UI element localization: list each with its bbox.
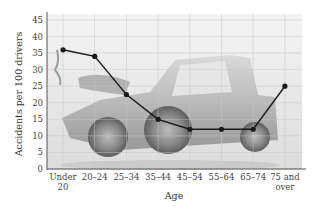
y-tick-label: 25 xyxy=(32,81,43,91)
data-point xyxy=(92,54,97,59)
x-tick-labels: Under2020–2425–3435–4445–5455–6465–7475 … xyxy=(49,172,300,192)
y-axis-label: Accidents per 100 drivers xyxy=(13,32,24,158)
y-tick-label: 15 xyxy=(32,114,43,124)
data-point xyxy=(219,127,224,132)
y-tick-label: 30 xyxy=(32,65,43,75)
x-tick-label: over xyxy=(275,182,295,192)
chart: 051015202530354045 Under2020–2425–3435–4… xyxy=(0,0,320,214)
y-tick-label: 5 xyxy=(38,147,43,157)
data-point xyxy=(251,127,256,132)
y-tick-label: 40 xyxy=(32,32,43,42)
x-tick-label: 45–54 xyxy=(177,172,203,182)
x-tick-label: Under xyxy=(49,172,77,182)
data-point xyxy=(60,47,65,52)
x-tick-label: 65–74 xyxy=(240,172,266,182)
data-point xyxy=(124,92,129,97)
data-point xyxy=(156,117,161,122)
y-tick-labels: 051015202530354045 xyxy=(32,15,43,174)
x-tick-label: 25–34 xyxy=(113,172,139,182)
y-tick-label: 45 xyxy=(32,15,43,25)
data-point xyxy=(282,84,287,89)
y-tick-label: 20 xyxy=(32,98,43,108)
truck-window xyxy=(172,61,232,96)
x-tick-label: 75 and xyxy=(270,172,300,182)
data-point xyxy=(187,127,192,132)
x-axis-label: Age xyxy=(164,190,184,201)
y-tick-label: 35 xyxy=(32,48,43,58)
x-tick-label: 55–64 xyxy=(209,172,235,182)
x-tick-label: 20 xyxy=(58,182,69,192)
y-tick-label: 0 xyxy=(38,164,43,174)
x-tick-label: 20–24 xyxy=(82,172,108,182)
truck-wheel-front xyxy=(88,117,128,157)
x-tick-label: 35–44 xyxy=(145,172,171,182)
y-tick-label: 10 xyxy=(32,131,43,141)
